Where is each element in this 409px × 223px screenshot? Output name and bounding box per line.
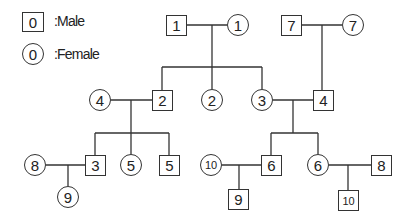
male-node-7: 7 <box>281 15 302 36</box>
node-label: 5 <box>127 157 135 174</box>
female-node-5: 5 <box>120 154 142 176</box>
female-node-9: 9 <box>57 186 79 208</box>
node-label: 3 <box>91 157 99 174</box>
legend-male-symbol-text: 0 <box>29 14 37 31</box>
male-node-6: 6 <box>261 155 282 176</box>
legend-female-label: :Female <box>54 46 99 62</box>
male-node-3: 3 <box>85 155 106 176</box>
female-node-4: 4 <box>89 89 111 111</box>
node-label: 5 <box>165 157 173 174</box>
female-node-10: 10 <box>200 154 222 176</box>
male-node-4: 4 <box>313 90 334 111</box>
node-label: 7 <box>349 17 357 34</box>
node-label: 3 <box>258 92 266 109</box>
node-label: 9 <box>234 191 242 208</box>
female-node-6: 6 <box>307 154 329 176</box>
male-node-1: 1 <box>166 15 187 36</box>
male-node-9: 9 <box>228 189 249 210</box>
node-label: 8 <box>31 157 39 174</box>
node-label: 9 <box>64 189 72 206</box>
node-label: 4 <box>319 92 327 109</box>
female-node-3: 3 <box>251 89 273 111</box>
node-label: 8 <box>377 157 385 174</box>
male-node-2: 2 <box>152 90 173 111</box>
male-node-5: 5 <box>159 155 180 176</box>
female-node-8: 8 <box>24 154 46 176</box>
node-label: 7 <box>287 17 295 34</box>
legend-female-symbol-text: 0 <box>29 46 37 63</box>
female-node-2: 2 <box>201 89 223 111</box>
male-node-8: 8 <box>371 155 392 176</box>
node-label: 2 <box>158 92 166 109</box>
node-label: 4 <box>96 92 104 109</box>
node-label: 1 <box>234 17 242 34</box>
node-label: 10 <box>205 159 217 171</box>
legend-female-symbol: 0 <box>22 43 44 65</box>
node-label: 2 <box>208 92 216 109</box>
node-label: 6 <box>314 157 322 174</box>
male-node-10: 10 <box>338 190 359 211</box>
node-label: 10 <box>342 195 354 207</box>
female-node-1: 1 <box>227 14 249 36</box>
legend-male-symbol: 0 <box>22 12 44 32</box>
female-node-7: 7 <box>342 14 364 36</box>
legend-male-label: :Male <box>54 13 84 29</box>
node-label: 6 <box>267 157 275 174</box>
node-label: 1 <box>172 17 180 34</box>
